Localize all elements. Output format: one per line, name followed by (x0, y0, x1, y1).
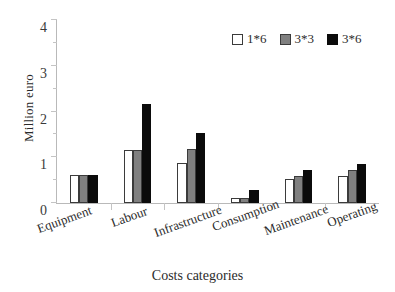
x-tick-label: Labour (109, 203, 150, 231)
bar-group (272, 20, 326, 203)
bar (231, 198, 240, 203)
x-axis-title: Costs categories (0, 268, 395, 284)
legend-swatch-icon (280, 34, 291, 45)
bar (338, 176, 347, 203)
bar (240, 198, 249, 203)
legend-label: 3*6 (342, 31, 362, 47)
bar-group (111, 20, 165, 203)
bar (303, 170, 312, 203)
bar (348, 170, 357, 203)
legend-label: 1*6 (247, 31, 267, 47)
legend-swatch-icon (232, 34, 243, 45)
legend-item[interactable]: 3*3 (280, 31, 315, 47)
bar (177, 163, 186, 203)
bar-group (218, 20, 272, 203)
x-tick-label: Equipment (35, 202, 94, 237)
bar (133, 150, 142, 203)
legend-item[interactable]: 3*6 (327, 31, 362, 47)
bar (187, 149, 196, 203)
bar (142, 104, 151, 203)
bar-chart: Million euro 01234 1*63*33*6 EquipmentLa… (0, 0, 395, 292)
bar (70, 175, 79, 203)
bar (294, 176, 303, 203)
bar (357, 164, 366, 203)
x-tick-labels: EquipmentLabourInfrastructureConsumption… (0, 208, 395, 263)
chart-legend: 1*63*33*6 (232, 31, 362, 47)
legend-swatch-icon (327, 34, 338, 45)
bar-group (325, 20, 379, 203)
bar (196, 133, 205, 203)
legend-label: 3*3 (295, 31, 315, 47)
bar (79, 175, 88, 203)
bar (88, 175, 97, 203)
bar-group (164, 20, 218, 203)
bar (249, 190, 258, 203)
bar (285, 179, 294, 203)
plot-area: 01234 (56, 20, 379, 204)
legend-item[interactable]: 1*6 (232, 31, 267, 47)
bar-group (57, 20, 111, 203)
y-axis-title: Million euro (21, 33, 37, 183)
bar (124, 150, 133, 203)
